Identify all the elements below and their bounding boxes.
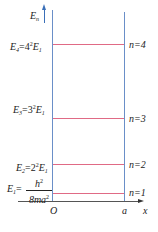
x-axis-arrow-icon (138, 199, 144, 203)
energy-label-e1: E1= (7, 184, 22, 197)
quantum-number-n3: n=3 (129, 114, 146, 124)
energy-e1-fraction: h2 8ma2 (26, 176, 52, 205)
energy-level-n2 (53, 164, 124, 165)
energy-label-e3: E3=32E1 (13, 102, 45, 118)
fraction-bar (26, 190, 52, 191)
left-wall-y-axis (52, 10, 53, 201)
quantum-number-n4: n=4 (129, 40, 146, 50)
y-axis-label: En (30, 11, 39, 24)
energy-level-n3 (53, 118, 124, 119)
energy-label-e2: E2=22E1 (16, 160, 48, 176)
x-axis-label: x (143, 206, 147, 216)
energy-level-n4 (53, 44, 124, 45)
quantum-number-n1: n=1 (129, 188, 146, 198)
y-axis-arrow-shaft (44, 9, 45, 23)
right-wall (124, 12, 125, 201)
origin-label: O (50, 206, 57, 216)
quantum-number-n2: n=2 (129, 160, 146, 170)
wall-a-label: a (122, 206, 127, 216)
energy-label-e4: E4=42E1 (10, 39, 42, 55)
energy-level-n1 (53, 193, 124, 194)
